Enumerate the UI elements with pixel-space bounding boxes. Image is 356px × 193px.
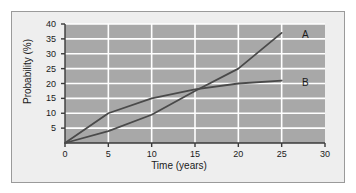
x-tick-label-15: 15 xyxy=(190,149,200,159)
y-tick-label-30: 30 xyxy=(36,49,56,59)
x-tick-label-10: 10 xyxy=(147,149,157,159)
series-label-b: B xyxy=(302,77,309,88)
y-axis-title: Probability (%) xyxy=(22,17,33,127)
figure-frame: 40 35 30 25 20 15 10 5 0 5 10 15 20 25 3… xyxy=(11,11,345,183)
series-label-a: A xyxy=(302,29,309,40)
y-tick-label-10: 10 xyxy=(36,108,56,118)
y-tick-label-5: 5 xyxy=(36,123,56,133)
y-tick-label-25: 25 xyxy=(36,64,56,74)
x-tick-label-5: 5 xyxy=(106,149,111,159)
y-tick-label-15: 15 xyxy=(36,93,56,103)
x-tick-label-20: 20 xyxy=(233,149,243,159)
x-tick-label-0: 0 xyxy=(62,149,67,159)
x-axis-title: Time (years) xyxy=(12,160,346,171)
x-tick-label-30: 30 xyxy=(320,149,330,159)
x-tick-label-25: 25 xyxy=(277,149,287,159)
y-tick-label-40: 40 xyxy=(36,19,56,29)
y-tick-label-35: 35 xyxy=(36,34,56,44)
y-tick-label-20: 20 xyxy=(36,79,56,89)
